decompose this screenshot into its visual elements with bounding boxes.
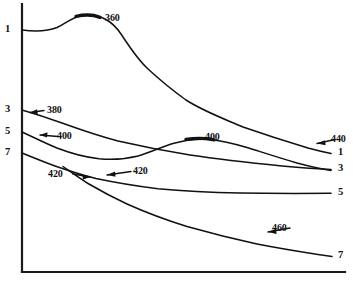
y-tick-label-right-7: 7 [338, 250, 343, 261]
contour-label-440: 440 [331, 134, 346, 144]
y-tick-label-right-5: 5 [338, 187, 343, 198]
contour-line-chart: 1 3 5 7 1 3 5 7 360 380 400 400 420 420 … [0, 0, 353, 289]
contour-label-360: 360 [105, 13, 120, 23]
contour-label-400-left: 400 [57, 131, 72, 141]
y-tick-label-right-3: 3 [338, 163, 343, 174]
y-tick-label-left-3: 3 [5, 104, 10, 115]
y-tick-label-left-5: 5 [5, 126, 10, 137]
leader-400-left [40, 132, 58, 137]
curve-360-crest [76, 15, 100, 17]
leader-420-right [107, 172, 131, 177]
contour-label-460: 460 [272, 223, 287, 233]
contour-label-420-left: 420 [48, 169, 63, 179]
y-tick-label-left-7: 7 [5, 147, 10, 158]
chart-canvas [0, 0, 353, 289]
contour-label-420-right: 420 [133, 166, 148, 176]
y-tick-label-right-1: 1 [338, 147, 343, 158]
y-tick-label-left-1: 1 [5, 24, 10, 35]
contour-label-400-mid: 400 [205, 132, 220, 142]
contour-label-380: 380 [47, 105, 62, 115]
